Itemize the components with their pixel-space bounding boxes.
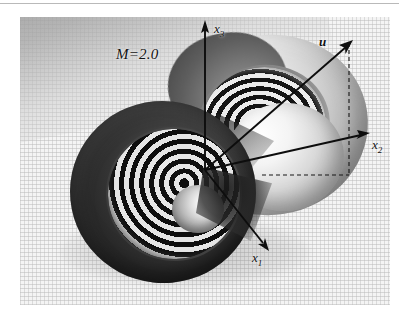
axis-label-x3: x3 — [214, 22, 224, 39]
vector-label-u: u — [319, 35, 326, 48]
axis-label-x2-subscript: 2 — [378, 145, 383, 155]
figure-root: M=2.0 x3 x2 x1 u — [0, 0, 399, 323]
axis-label-x3-subscript: 3 — [220, 29, 225, 39]
mach-number-annotation: M=2.0 — [116, 47, 158, 62]
directivity-surface-group — [20, 17, 390, 305]
page-top-rule — [0, 3, 399, 4]
axis-label-x1: x1 — [252, 251, 262, 268]
figure-plate: M=2.0 x3 x2 x1 u — [20, 17, 390, 305]
axis-label-x1-subscript: 1 — [258, 258, 263, 268]
axis-label-x2: x2 — [372, 138, 382, 155]
